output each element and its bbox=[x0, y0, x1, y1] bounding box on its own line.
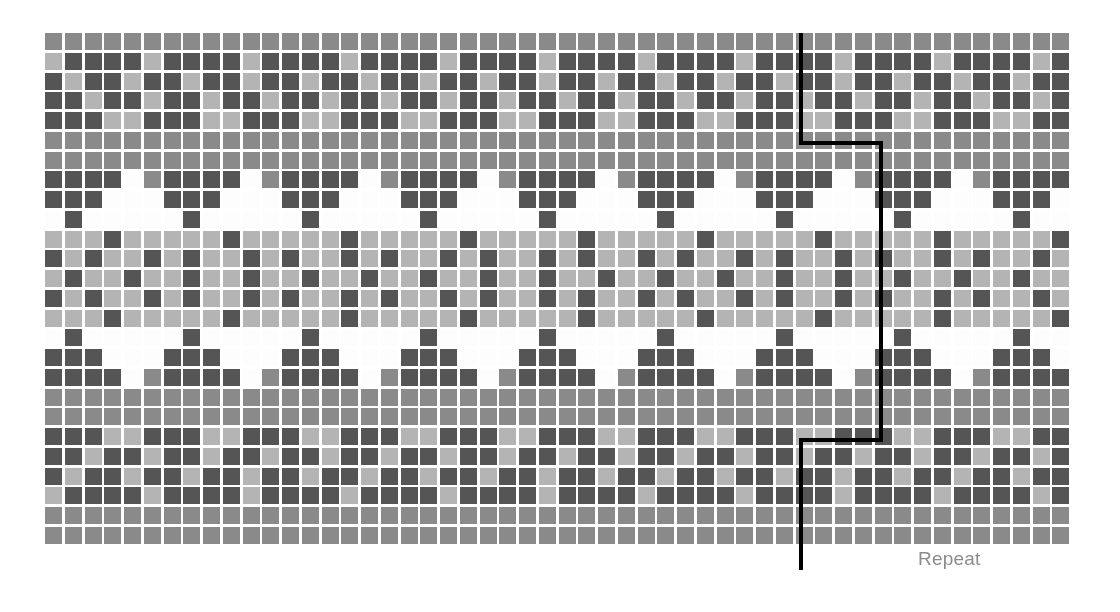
pattern-grid bbox=[0, 0, 1120, 612]
repeat-label: Repeat bbox=[918, 549, 980, 568]
colorwork-chart: Repeat bbox=[0, 0, 1120, 612]
